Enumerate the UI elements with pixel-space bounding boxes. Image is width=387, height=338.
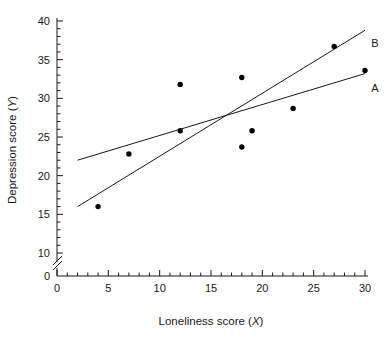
data-point <box>290 106 295 111</box>
y-axis-tick-label: 0 <box>44 270 50 282</box>
data-point <box>332 44 337 49</box>
y-axis-tick-label: 20 <box>38 170 50 182</box>
y-axis-tick-label: 15 <box>38 208 50 220</box>
data-point <box>362 68 367 73</box>
y-axis-tick-label: 35 <box>38 54 50 66</box>
data-point <box>126 151 131 156</box>
scatter-plot-figure: 101520253035400 051015202530 AB Loneline… <box>0 0 387 338</box>
line-label-A: A <box>371 82 379 94</box>
data-point <box>95 204 100 209</box>
x-axis-tick-label: 25 <box>308 282 320 294</box>
data-point <box>178 82 183 87</box>
x-axis-tick-label: 30 <box>359 282 371 294</box>
y-axis-tick-label: 30 <box>38 92 50 104</box>
x-axis-tick-label: 0 <box>54 282 60 294</box>
data-point <box>239 144 244 149</box>
y-axis-title: Depression score (Y) <box>6 96 18 204</box>
data-point <box>249 128 254 133</box>
data-point <box>178 128 183 133</box>
line-label-B: B <box>371 37 378 49</box>
y-axis-tick-label: 10 <box>38 247 50 259</box>
y-axis-tick-label: 40 <box>38 15 50 27</box>
y-axis-tick-label: 25 <box>38 131 50 143</box>
x-axis-title: Loneliness score (X) <box>159 315 264 327</box>
x-axis-tick-label: 5 <box>105 282 111 294</box>
x-axis-tick-label: 15 <box>205 282 217 294</box>
data-point <box>239 75 244 80</box>
x-axis-tick-label: 20 <box>256 282 268 294</box>
x-axis-tick-label: 10 <box>154 282 166 294</box>
chart-canvas: 101520253035400 051015202530 AB Loneline… <box>0 0 387 338</box>
